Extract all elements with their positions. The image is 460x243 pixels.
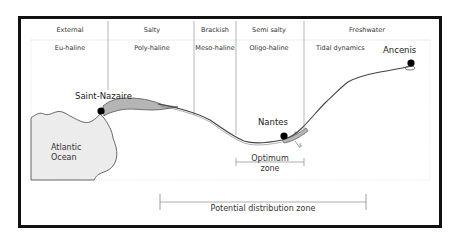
salinity-eu-haline: Eu-haline (55, 44, 85, 52)
salinity-tidal-dynamics: Tidal dynamics (316, 44, 365, 52)
salinity-oligo-haline: Oligo-haline (249, 44, 288, 52)
loire-river (158, 66, 412, 143)
header-external: External (57, 26, 84, 34)
saint-nazaire-marker (97, 107, 104, 114)
label-atlantic-ocean: Atlantic Ocean (51, 143, 81, 163)
label-nantes: Nantes (258, 117, 288, 127)
header-brackish: Brackish (201, 26, 229, 34)
label-saint-nazaire: Saint-Nazaire (75, 91, 132, 101)
label-ancenis: Ancenis (383, 45, 416, 55)
header-semi-salty: Semi salty (252, 26, 286, 34)
marker-label-5: 5 (299, 143, 302, 148)
nantes-marker (280, 132, 287, 139)
optimum-zone-label: Optimum zone (251, 154, 288, 174)
header-salty: Salty (144, 26, 160, 34)
ancenis-marker (407, 59, 414, 66)
salinity-meso-haline: Meso-haline (195, 44, 234, 52)
salinity-poly-haline: Poly-haline (134, 44, 169, 52)
marker-label-x: x (294, 130, 297, 135)
header-freshwater: Freshwater (349, 26, 385, 34)
potential-distribution-label: Potential distribution zone (211, 204, 316, 214)
